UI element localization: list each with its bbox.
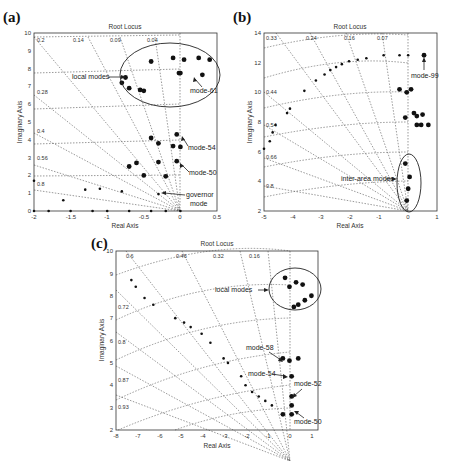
annotation-mode-58: mode-58 xyxy=(246,344,274,351)
panel-c-ylabel: Imaginary Axis xyxy=(98,318,106,361)
data-point xyxy=(335,66,338,69)
data-point xyxy=(33,179,36,182)
data-point xyxy=(47,210,50,213)
svg-text:-1: -1 xyxy=(104,214,110,220)
data-point xyxy=(303,90,306,93)
data-point xyxy=(84,188,87,191)
data-point xyxy=(348,60,351,63)
zeta-label: 0.6 xyxy=(126,253,134,259)
panel-c-xlabel: Real Axis xyxy=(203,442,231,449)
data-point xyxy=(251,391,254,394)
zeta-label: 0.09 xyxy=(110,37,121,43)
data-point xyxy=(150,210,153,213)
data-point xyxy=(164,210,167,213)
svg-text:8: 8 xyxy=(110,293,114,299)
annotation-local-modes: local modes xyxy=(72,73,110,80)
data-point xyxy=(69,210,72,213)
data-point xyxy=(287,284,292,289)
data-point xyxy=(178,71,183,76)
data-point xyxy=(286,112,289,115)
svg-text:-2: -2 xyxy=(31,214,37,220)
data-point xyxy=(289,412,294,417)
data-point xyxy=(296,302,301,307)
zeta-label: 0.14 xyxy=(73,37,84,43)
svg-text:6: 6 xyxy=(110,338,114,344)
data-point xyxy=(414,114,419,119)
data-point xyxy=(271,404,274,407)
panel-a: (a) Root Locus 0.2 0.14 0.09 0.04 0.28 0… xyxy=(3,9,222,229)
svg-text:10: 10 xyxy=(24,30,31,36)
data-point xyxy=(62,199,65,202)
panel-a-label: (a) xyxy=(3,9,21,26)
data-point xyxy=(291,305,296,310)
panel-c-label: (c) xyxy=(91,235,108,252)
panel-a-points xyxy=(33,56,212,213)
svg-text:-3: -3 xyxy=(222,433,228,439)
zeta-label: 0.04 xyxy=(147,37,158,43)
data-point xyxy=(268,140,271,143)
svg-text:9: 9 xyxy=(110,271,114,277)
svg-text:-2: -2 xyxy=(347,214,353,220)
zeta-label: 0.8 xyxy=(37,181,45,187)
data-point xyxy=(134,161,139,166)
svg-text:0: 0 xyxy=(178,214,182,220)
svg-text:10: 10 xyxy=(254,89,261,95)
svg-text:4: 4 xyxy=(258,178,262,184)
svg-text:5: 5 xyxy=(28,119,32,125)
data-point xyxy=(397,87,402,92)
data-point xyxy=(315,79,318,82)
svg-text:-2: -2 xyxy=(244,433,250,439)
root-locus-figure: (a) Root Locus 0.2 0.14 0.09 0.04 0.28 0… xyxy=(0,0,452,461)
data-point xyxy=(130,279,133,282)
data-point xyxy=(156,160,161,165)
zeta-label: 0.56 xyxy=(37,155,48,161)
data-point xyxy=(257,395,260,398)
panel-c-plot-area xyxy=(116,251,318,430)
data-point xyxy=(422,53,427,58)
panel-a-grid xyxy=(34,33,180,211)
panel-b-yticks: 2 4 6 8 10 12 14 xyxy=(254,30,261,214)
data-point xyxy=(271,131,274,134)
data-point xyxy=(222,357,225,360)
data-point xyxy=(407,54,410,57)
data-point xyxy=(244,384,247,387)
data-point xyxy=(227,362,230,365)
zeta-label: 0.8 xyxy=(118,339,126,345)
data-point xyxy=(156,141,161,146)
data-point xyxy=(174,132,179,137)
data-point xyxy=(182,57,187,62)
data-point xyxy=(196,56,201,61)
panel-a-title: Root Locus xyxy=(109,23,143,30)
data-point xyxy=(143,297,146,300)
panel-c: (c) Root Locus 0.6 0.46 0.32 0.16 0.72 0… xyxy=(91,235,322,461)
data-point xyxy=(171,56,176,61)
panel-b-xlabel: Real Axis xyxy=(336,222,364,229)
data-point xyxy=(200,72,205,77)
data-point xyxy=(200,332,203,335)
svg-text:4: 4 xyxy=(110,382,114,388)
zeta-label: 0.72 xyxy=(118,304,129,310)
data-point xyxy=(365,57,368,60)
data-point xyxy=(289,403,294,408)
data-point xyxy=(403,161,408,166)
annotation-governor: governor xyxy=(186,191,214,199)
zeta-label: 0.87 xyxy=(118,377,129,383)
data-point xyxy=(127,164,132,169)
annotation-mode-54: mode-54 xyxy=(248,370,276,377)
zeta-label: 0.46 xyxy=(176,253,187,259)
data-point xyxy=(407,174,412,179)
data-point xyxy=(426,123,431,128)
svg-text:1: 1 xyxy=(310,433,314,439)
data-point xyxy=(403,115,408,120)
data-point xyxy=(409,87,414,92)
panel-c-title: Root Locus xyxy=(201,240,235,247)
data-point xyxy=(341,63,344,66)
data-point xyxy=(382,54,385,57)
inter-area-ellipse xyxy=(397,154,421,212)
zeta-label: 0.66 xyxy=(266,154,277,160)
svg-text:7: 7 xyxy=(110,315,114,321)
data-point xyxy=(280,412,285,417)
panel-b-title: Root Locus xyxy=(334,23,368,30)
svg-text:-7: -7 xyxy=(135,433,141,439)
svg-text:14: 14 xyxy=(254,30,261,36)
